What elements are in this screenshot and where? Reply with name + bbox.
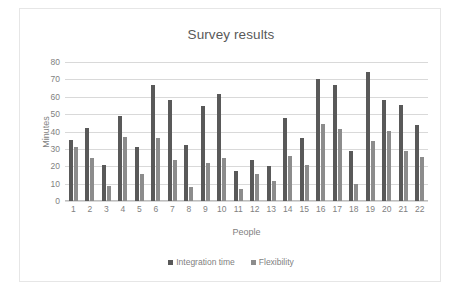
x-axis-tick-label: 6: [148, 204, 165, 214]
legend-label: Integration time: [176, 257, 235, 267]
bar[interactable]: [250, 160, 254, 201]
y-axis-tick-label: 80: [51, 57, 60, 67]
bar-group: [313, 62, 330, 201]
bar[interactable]: [156, 138, 160, 201]
bar[interactable]: [316, 79, 320, 201]
bar[interactable]: [217, 94, 221, 201]
bar[interactable]: [102, 165, 106, 201]
bar[interactable]: [90, 158, 94, 201]
x-axis-ticks: 12345678910111213141516171819202122: [65, 204, 428, 214]
x-axis-tick-label: 11: [230, 204, 247, 214]
bar[interactable]: [201, 106, 205, 201]
chart-title: Survey results: [20, 27, 442, 42]
bar[interactable]: [333, 85, 337, 201]
y-axis-tick-label: 50: [51, 109, 60, 119]
y-axis-tick-label: 60: [51, 92, 60, 102]
legend-label: Flexibility: [259, 257, 294, 267]
gridline: [65, 201, 428, 202]
bar[interactable]: [206, 163, 210, 201]
chart-container: Survey results Minutes 01020304050607080…: [19, 8, 441, 282]
x-axis-tick-label: 12: [247, 204, 264, 214]
bar-group: [197, 62, 214, 201]
bar[interactable]: [135, 147, 139, 201]
x-axis-tick-label: 14: [280, 204, 297, 214]
bar-group: [247, 62, 264, 201]
bar[interactable]: [283, 118, 287, 201]
bar-group: [263, 62, 280, 201]
bar[interactable]: [354, 184, 358, 201]
y-axis-tick-label: 10: [51, 179, 60, 189]
bar[interactable]: [272, 181, 276, 201]
x-axis-tick-label: 8: [181, 204, 198, 214]
x-axis-tick-label: 16: [313, 204, 330, 214]
bar[interactable]: [107, 186, 111, 201]
bar[interactable]: [387, 131, 391, 201]
bar[interactable]: [420, 157, 424, 201]
bar[interactable]: [415, 125, 419, 201]
bar[interactable]: [74, 147, 78, 201]
bar[interactable]: [382, 100, 386, 201]
x-axis-title: People: [65, 227, 428, 237]
x-axis-tick-label: 18: [346, 204, 363, 214]
chart-legend: Integration timeFlexibility: [20, 257, 442, 267]
y-axis-title-label: Minutes: [41, 116, 51, 148]
x-axis-tick-label: 9: [197, 204, 214, 214]
bar[interactable]: [140, 174, 144, 201]
bar[interactable]: [321, 124, 325, 201]
bar[interactable]: [338, 129, 342, 201]
bar[interactable]: [239, 189, 243, 201]
bar[interactable]: [234, 171, 238, 201]
bar-group: [214, 62, 231, 201]
y-axis-tick-label: 0: [55, 196, 60, 206]
bar[interactable]: [288, 156, 292, 201]
bar[interactable]: [184, 145, 188, 201]
bar[interactable]: [300, 138, 304, 201]
x-axis-tick-label: 19: [362, 204, 379, 214]
y-axis-tick-label: 30: [51, 144, 60, 154]
bar[interactable]: [371, 141, 375, 201]
bar[interactable]: [168, 100, 172, 201]
bar[interactable]: [366, 72, 370, 201]
bar-group: [412, 62, 429, 201]
bar-group: [164, 62, 181, 201]
x-axis-tick-label: 15: [296, 204, 313, 214]
bar[interactable]: [399, 105, 403, 201]
bar[interactable]: [173, 160, 177, 201]
plot-area: 01020304050607080: [65, 62, 428, 201]
x-axis-tick-label: 22: [412, 204, 429, 214]
bar[interactable]: [69, 140, 73, 201]
legend-item[interactable]: Integration time: [168, 257, 235, 267]
x-axis-tick-label: 21: [395, 204, 412, 214]
legend-swatch-icon: [251, 260, 256, 265]
y-axis-tick-label: 70: [51, 74, 60, 84]
bar[interactable]: [222, 158, 226, 201]
bar-group: [65, 62, 82, 201]
bar[interactable]: [349, 151, 353, 201]
bar-group: [346, 62, 363, 201]
legend-item[interactable]: Flexibility: [251, 257, 294, 267]
bar[interactable]: [85, 128, 89, 201]
bar[interactable]: [267, 166, 271, 201]
bar[interactable]: [305, 165, 309, 201]
bar-group: [98, 62, 115, 201]
bar-group: [329, 62, 346, 201]
bar-group: [280, 62, 297, 201]
bar[interactable]: [118, 116, 122, 201]
x-axis-tick-label: 17: [329, 204, 346, 214]
legend-swatch-icon: [168, 260, 173, 265]
x-axis-tick-label: 13: [263, 204, 280, 214]
bar[interactable]: [123, 137, 127, 201]
bar[interactable]: [189, 187, 193, 201]
x-axis-tick-label: 3: [98, 204, 115, 214]
x-axis-tick-label: 4: [115, 204, 132, 214]
x-axis-tick-label: 5: [131, 204, 148, 214]
bar[interactable]: [151, 85, 155, 201]
bar-group: [115, 62, 132, 201]
bar[interactable]: [255, 174, 259, 201]
y-axis-tick-label: 40: [51, 127, 60, 137]
bar-group: [181, 62, 198, 201]
bar[interactable]: [404, 151, 408, 201]
x-axis-tick-label: 10: [214, 204, 231, 214]
bar-group: [296, 62, 313, 201]
bar-group: [148, 62, 165, 201]
